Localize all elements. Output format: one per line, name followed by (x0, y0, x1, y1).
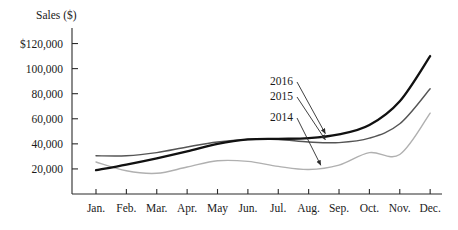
x-axis-tick-label: Mar. (146, 202, 168, 214)
series-line-2016 (96, 56, 430, 170)
x-axis-tick-label: Jun. (238, 202, 257, 214)
x-axis-tick-label: Feb. (116, 202, 136, 214)
axis-tick-marks (72, 44, 430, 194)
x-axis-tick-labels: Jan.Feb.Mar.Apr.MayJun.Jul.Aug.Sep.Oct.N… (87, 202, 441, 215)
x-axis-tick-label: Dec. (419, 202, 441, 214)
chart-canvas: Sales ($) $120,000100,00080,00060,00040,… (0, 0, 458, 230)
y-axis-tick-label: 60,000 (31, 113, 63, 126)
x-axis-tick-label: Nov. (389, 202, 411, 214)
x-axis-tick-label: May (207, 202, 228, 215)
y-axis-tick-labels: $120,000100,00080,00060,00040,00020,000 (20, 38, 63, 176)
x-axis-tick-label: Sep. (329, 202, 349, 215)
x-axis-tick-label: Oct. (360, 202, 380, 214)
y-axis-tick-label: 40,000 (31, 138, 63, 151)
x-axis-tick-label: Jul. (270, 202, 286, 214)
y-axis-title: Sales ($) (36, 9, 77, 22)
x-axis-tick-label: Jan. (87, 202, 105, 214)
series-line-2014 (96, 113, 430, 173)
x-axis-tick-label: Apr. (177, 202, 197, 215)
series-annotation-label-2015: 2015 (270, 90, 293, 102)
y-axis-tick-label: 80,000 (31, 88, 63, 101)
series-annotation-label-2014: 2014 (270, 111, 293, 123)
series-annotation-leader-2015 (297, 97, 325, 140)
sales-line-chart: Sales ($) $120,000100,00080,00060,00040,… (0, 0, 458, 230)
y-axis-tick-label: $120,000 (20, 38, 63, 51)
data-series-group (96, 56, 430, 173)
y-axis-tick-label: 100,000 (26, 63, 64, 76)
series-line-2015 (96, 89, 430, 156)
series-annotation-label-2016: 2016 (270, 75, 293, 87)
series-annotations: 201620152014 (270, 75, 325, 165)
x-axis-tick-label: Aug. (297, 202, 320, 215)
y-axis-tick-label: 20,000 (31, 163, 63, 176)
